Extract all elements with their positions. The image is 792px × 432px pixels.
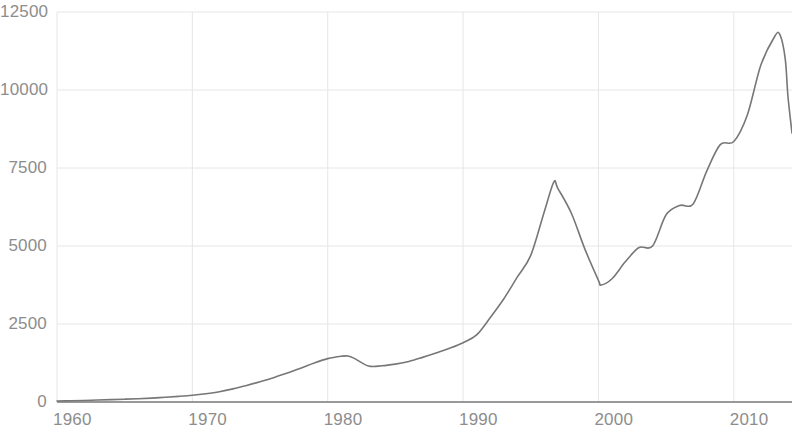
data-line-series (57, 32, 792, 401)
y-tick-label-2500: 2500 (0, 314, 47, 334)
x-tick-label-2010: 2010 (730, 410, 769, 430)
chart-plot-area (0, 0, 792, 432)
x-tick-label-1960: 1960 (53, 410, 92, 430)
vertical-gridlines (57, 12, 734, 402)
x-tick-label-1980: 1980 (324, 410, 363, 430)
y-tick-label-10000: 10000 (0, 80, 47, 100)
y-tick-label-12500: 12500 (0, 2, 47, 22)
y-tick-label-7500: 7500 (0, 158, 47, 178)
x-tick-label-1990: 1990 (459, 410, 498, 430)
horizontal-gridlines (57, 12, 792, 324)
y-tick-label-5000: 5000 (0, 236, 47, 256)
y-tick-label-0: 0 (0, 392, 47, 412)
line-chart: 02500500075001000012500 1960197019801990… (0, 0, 792, 432)
x-tick-label-2000: 2000 (594, 410, 633, 430)
x-tick-label-1970: 1970 (188, 410, 227, 430)
